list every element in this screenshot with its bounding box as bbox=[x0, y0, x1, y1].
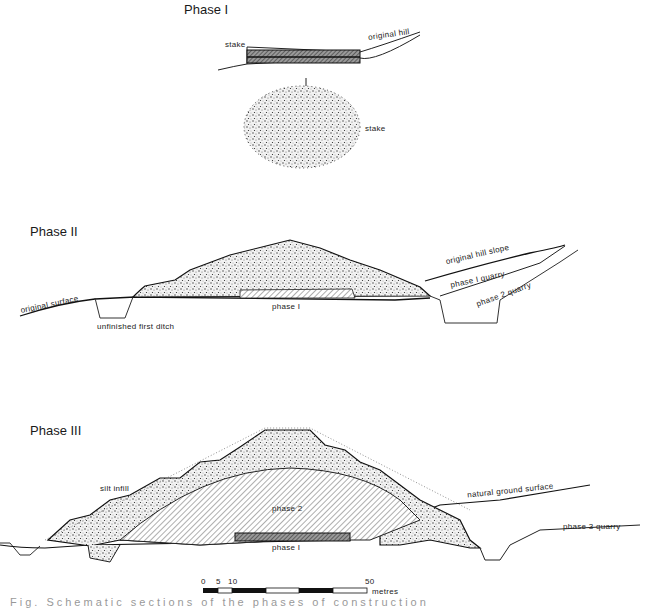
scale-tick-10: 10 bbox=[228, 577, 238, 586]
label-phase1-core: phase I bbox=[272, 302, 300, 311]
label-silt-infill: silt infill bbox=[100, 484, 129, 493]
label-stake-plan: stake bbox=[365, 124, 386, 133]
scale-tick-5: 5 bbox=[216, 577, 221, 586]
phase3-section bbox=[0, 428, 640, 562]
label-unfinished-first-ditch: unfinished first ditch bbox=[97, 322, 174, 331]
figure-caption: Fig. Schematic sections of the phases of… bbox=[10, 596, 429, 608]
label-phase3-quarry: phase 3 quarry bbox=[563, 522, 621, 531]
scale-tick-50: 50 bbox=[365, 577, 375, 586]
scale-bar bbox=[203, 588, 367, 593]
label-stake-top: stake bbox=[225, 40, 246, 49]
label-phase2-mound: phase 2 bbox=[272, 504, 303, 513]
label-phase1-core-iii: phase I bbox=[272, 543, 300, 552]
phase3-heading: Phase III bbox=[30, 423, 81, 438]
scale-tick-0: 0 bbox=[201, 577, 206, 586]
phase1-heading: Phase I bbox=[184, 2, 228, 17]
scale-unit: metres bbox=[372, 587, 398, 596]
phase1-section bbox=[218, 32, 420, 168]
phase2-heading: Phase II bbox=[30, 224, 78, 239]
